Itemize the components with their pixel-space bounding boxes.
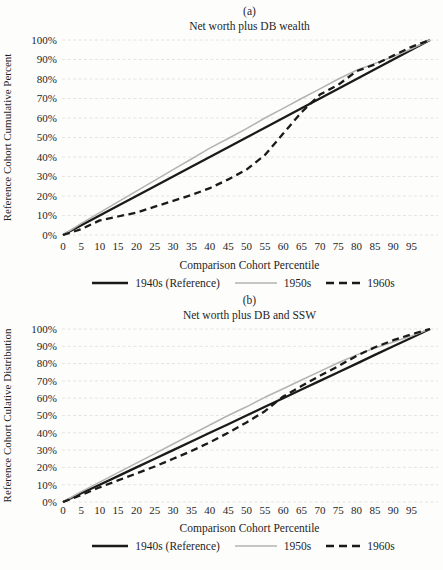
x-tick-label: 60 [278, 504, 290, 516]
x-tick-label: 15 [113, 504, 125, 516]
legend-item-1950s: 1950s [235, 277, 311, 289]
x-tick-label: 40 [204, 240, 216, 252]
x-tick-label: 55 [259, 504, 271, 516]
x-tick-label: 0 [60, 504, 66, 516]
y-tick-label: 50% [37, 131, 57, 143]
chart-a-title: Net worth plus DB wealth [56, 19, 443, 34]
x-tick-label: 5 [79, 240, 85, 252]
plot-area-b: 0%10%20%30%40%50%60%70%80%90%100%0510152… [0, 323, 443, 519]
x-tick-label: 75 [333, 504, 345, 516]
legend-item-1940s: 1940s (Reference) [92, 540, 220, 552]
y-tick-label: 70% [37, 92, 57, 104]
x-tick-label: 80 [351, 504, 363, 516]
y-tick-label: 0% [42, 229, 57, 241]
y-tick-label: 10% [37, 209, 57, 221]
x-tick-label: 25 [149, 504, 161, 516]
x-tick-label: 20 [131, 240, 143, 252]
x-tick-label: 20 [131, 504, 143, 516]
y-tick-label: 70% [37, 375, 57, 387]
x-tick-label: 45 [223, 504, 235, 516]
chart-panel-b: (b) Net worth plus DB and SSW 0%10%20%30… [0, 291, 443, 554]
x-tick-label: 50 [241, 240, 253, 252]
x-tick-label: 30 [168, 240, 180, 252]
x-tick-label: 90 [388, 240, 400, 252]
x-tick-label: 35 [186, 504, 198, 516]
x-tick-label: 85 [369, 240, 381, 252]
y-tick-label: 50% [37, 409, 57, 421]
x-tick-label: 95 [406, 504, 418, 516]
y-axis-title: Reference Cohort Cumulative Percent [1, 54, 13, 222]
x-tick-label: 10 [94, 240, 106, 252]
x-tick-label: 75 [333, 240, 345, 252]
y-tick-label: 20% [37, 190, 57, 202]
x-tick-label: 5 [79, 504, 85, 516]
y-tick-label: 40% [37, 427, 57, 439]
y-tick-label: 30% [37, 444, 57, 456]
y-tick-label: 100% [31, 34, 57, 46]
y-tick-label: 80% [37, 357, 57, 369]
legend-line-swatch-1950s [235, 279, 277, 287]
chart-b-title-block: (b) Net worth plus DB and SSW [0, 291, 443, 323]
y-tick-label: 30% [37, 170, 57, 182]
legend-line-swatch-1960s [326, 542, 360, 550]
y-tick-label: 10% [37, 479, 57, 491]
x-tick-label: 55 [259, 240, 271, 252]
y-tick-label: 0% [42, 496, 57, 508]
chart-a-x-axis-title: Comparison Cohort Percentile [0, 256, 443, 274]
y-tick-label: 90% [37, 340, 57, 352]
legend-item-1960s: 1960s [326, 277, 394, 289]
legend-item-1950s: 1950s [235, 540, 311, 552]
x-tick-label: 80 [351, 240, 363, 252]
chart-a-title-block: (a) Net worth plus DB wealth [0, 4, 443, 34]
y-tick-label: 100% [31, 323, 57, 335]
legend-item-1940s: 1940s (Reference) [92, 277, 220, 289]
chart-a-panel-label: (a) [56, 4, 443, 19]
chart-b-x-axis-title: Comparison Cohort Percentile [0, 519, 443, 537]
y-axis-title: Reference Cohort Culative Distribution [1, 328, 13, 502]
y-tick-label: 40% [37, 151, 57, 163]
y-tick-label: 80% [37, 73, 57, 85]
legend-item-1960s: 1960s [326, 540, 394, 552]
x-tick-label: 90 [388, 504, 400, 516]
legend-label: 1950s [284, 540, 311, 552]
x-tick-label: 70 [314, 240, 326, 252]
x-tick-label: 65 [296, 504, 308, 516]
x-tick-label: 45 [223, 240, 235, 252]
x-tick-label: 50 [241, 504, 253, 516]
x-tick-label: 70 [314, 504, 326, 516]
chart-panel-a: (a) Net worth plus DB wealth 0%10%20%30%… [0, 4, 443, 291]
legend-line-swatch-1960s [326, 279, 360, 287]
x-tick-label: 85 [369, 504, 381, 516]
x-tick-label: 10 [94, 504, 106, 516]
y-tick-label: 90% [37, 53, 57, 65]
x-tick-label: 35 [186, 240, 198, 252]
chart-b-title: Net worth plus DB and SSW [56, 308, 443, 323]
x-tick-label: 60 [278, 240, 290, 252]
x-tick-label: 95 [406, 240, 418, 252]
legend-line-swatch-1950s [235, 542, 277, 550]
x-tick-label: 25 [149, 240, 161, 252]
chart-b-panel-label: (b) [56, 293, 443, 308]
figure-cohort-wealth-distribution: (a) Net worth plus DB wealth 0%10%20%30%… [0, 0, 443, 570]
legend-line-swatch-1940s [92, 279, 128, 287]
x-tick-label: 0 [60, 240, 66, 252]
x-tick-label: 65 [296, 240, 308, 252]
legend-label: 1940s (Reference) [135, 540, 220, 552]
legend-label: 1950s [284, 277, 311, 289]
chart-a-legend: 1940s (Reference)1950s1960s [0, 274, 443, 291]
y-tick-label: 60% [37, 392, 57, 404]
y-tick-label: 20% [37, 461, 57, 473]
legend-label: 1960s [367, 540, 394, 552]
plot-area-a: 0%10%20%30%40%50%60%70%80%90%100%0510152… [0, 34, 443, 256]
x-tick-label: 15 [113, 240, 125, 252]
y-tick-label: 60% [37, 112, 57, 124]
legend-label: 1960s [367, 277, 394, 289]
legend-label: 1940s (Reference) [135, 277, 220, 289]
x-tick-label: 30 [168, 504, 180, 516]
legend-line-swatch-1940s [92, 542, 128, 550]
chart-b-legend: 1940s (Reference)1950s1960s [0, 537, 443, 554]
x-tick-label: 40 [204, 504, 216, 516]
